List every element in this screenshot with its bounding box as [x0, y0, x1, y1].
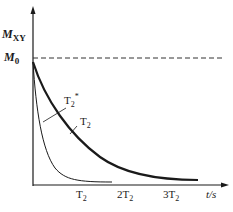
t2-curve: [33, 62, 198, 180]
x-tick-2t2: 2T2: [117, 189, 133, 203]
y-axis-label: MXY: [2, 28, 26, 43]
t2-star-label: T2*: [64, 93, 79, 109]
x-tick-3t2: 3T2: [163, 189, 179, 203]
t2-star-curve: [33, 62, 112, 182]
x-axis-label: t/s: [206, 189, 216, 200]
y-axis-arrow-icon: [31, 6, 36, 14]
m0-label: M0: [4, 51, 19, 66]
diagram-canvas: [0, 0, 233, 212]
x-tick-t2: T2: [76, 189, 87, 203]
t2-label: T2: [80, 116, 91, 130]
x-axis-arrow-icon: [221, 183, 229, 188]
